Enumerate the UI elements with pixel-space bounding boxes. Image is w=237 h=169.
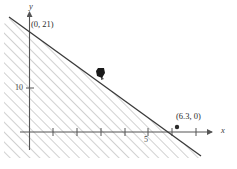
y-tick-label-10: 10 xyxy=(15,84,23,92)
x-intercept-label: (6.3, 0) xyxy=(176,112,201,121)
graph-figure: y x (0, 21) (6.3, 0) 10 5 xyxy=(0,0,237,169)
y-intercept-label: (0, 21) xyxy=(31,20,54,29)
ink-blob-marker xyxy=(96,68,105,80)
y-axis-label: y xyxy=(29,2,33,11)
x-intercept-point xyxy=(175,125,179,129)
x-axis-label: x xyxy=(221,126,225,135)
x-tick-label-5: 5 xyxy=(144,136,148,144)
